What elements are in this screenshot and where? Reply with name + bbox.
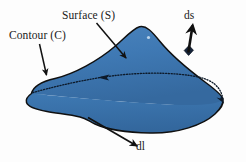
surface-patch-group [26,27,223,134]
highlight-dot [147,36,150,39]
label-contour: Contour (C) [9,30,66,42]
label-dl: dl [136,141,145,153]
ds-element-group [184,26,193,56]
label-surface: Surface (S) [62,10,115,22]
contour-leader-arrow [40,44,47,75]
label-ds: ds [184,10,194,22]
surface-contour-diagram [0,0,246,162]
figure-canvas: Contour (C) Surface (S) ds dl [0,0,246,162]
